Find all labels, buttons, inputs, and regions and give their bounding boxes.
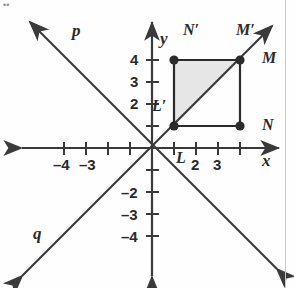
line-label-q: q xyxy=(33,225,42,242)
x-tick-neg3: –3 xyxy=(79,157,96,172)
point-label-N-prime: N′ xyxy=(183,22,199,38)
y-tick-3: 3 xyxy=(130,74,138,89)
dot-N xyxy=(235,121,244,130)
y-tick-neg2: –2 xyxy=(121,185,138,200)
shaded-triangle xyxy=(174,60,240,126)
line-label-p: p xyxy=(72,22,81,39)
point-label-L: L xyxy=(176,150,186,166)
point-label-N: N xyxy=(262,117,274,133)
dot-N-prime xyxy=(169,55,178,64)
dot-L-prime xyxy=(169,121,178,130)
coordinate-plane-svg xyxy=(0,0,294,288)
x-tick-2: 2 xyxy=(191,157,199,172)
y-axis-label: y xyxy=(160,30,168,47)
point-label-M-prime: M′ xyxy=(236,22,255,38)
page-rule xyxy=(285,0,286,288)
dot-M-prime xyxy=(235,55,244,64)
x-axis-label: x xyxy=(262,152,271,169)
point-label-M: M xyxy=(262,50,276,66)
x-tick-neg4: –4 xyxy=(53,157,70,172)
x-tick-3: 3 xyxy=(213,157,221,172)
y-tick-neg3: –3 xyxy=(121,207,138,222)
y-tick-4: 4 xyxy=(130,52,138,67)
line-q xyxy=(22,26,272,276)
y-tick-neg4: –4 xyxy=(121,229,138,244)
figure-canvas: •• xyxy=(0,0,294,288)
point-label-L-prime: L′ xyxy=(152,98,166,114)
y-tick-2: 2 xyxy=(130,96,138,111)
